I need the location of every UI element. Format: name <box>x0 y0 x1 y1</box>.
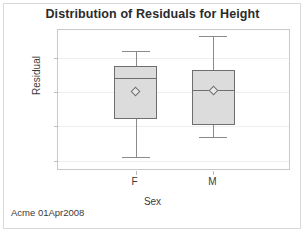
median-line <box>114 78 157 79</box>
x-tick-mark <box>136 171 137 175</box>
lower-whisker-cap <box>122 157 150 158</box>
upper-whisker <box>213 36 214 70</box>
plot-area <box>57 29 290 170</box>
lower-whisker <box>213 125 214 137</box>
y-tick-mark <box>54 92 58 93</box>
lower-whisker <box>136 119 137 156</box>
y-axis-title: Residual <box>31 16 42 136</box>
y-tick-mark <box>54 58 58 59</box>
boxplot-figure: Distribution of Residuals for Height Res… <box>0 0 305 234</box>
upper-whisker-cap <box>122 51 150 52</box>
x-tick-label-f: F <box>115 176 155 187</box>
footnote: Acme 01Apr2008 <box>11 207 84 218</box>
y-tick-mark <box>54 126 58 127</box>
gridline <box>58 126 289 127</box>
x-tick-mark <box>213 171 214 175</box>
y-tick-mark <box>54 161 58 162</box>
gridline <box>58 92 289 93</box>
gridline <box>58 161 289 162</box>
x-tick-label-m: M <box>192 176 232 187</box>
lower-whisker-cap <box>199 137 227 138</box>
gridline <box>58 58 289 59</box>
box-m <box>192 70 235 125</box>
page-title: Distribution of Residuals for Height <box>0 7 305 21</box>
upper-whisker-cap <box>199 36 227 37</box>
x-axis-title: Sex <box>0 196 305 207</box>
upper-whisker <box>136 51 137 65</box>
